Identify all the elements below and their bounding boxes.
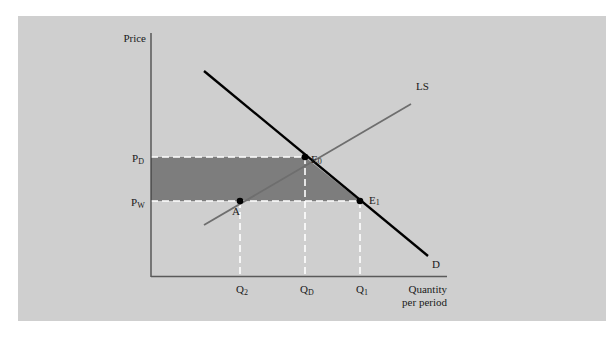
supply-demand-diagram: Price Quantity per period PD PW Q2 QD Q1… <box>0 0 616 337</box>
point-label-e0: E0 <box>311 153 322 166</box>
point-label-a: A <box>232 205 240 217</box>
x-axis-label-line2: per period <box>402 296 447 308</box>
curve-label-d: D <box>432 258 440 270</box>
price-label-pw: PW <box>131 196 145 210</box>
quantity-label-qd: QD <box>300 283 314 297</box>
y-axis-label: Price <box>123 32 146 44</box>
point-a <box>237 198 244 205</box>
point-label-e1: E1 <box>369 194 380 207</box>
price-label-pd: PD <box>132 152 144 166</box>
point-e0 <box>302 154 309 161</box>
quantity-label-q1: Q1 <box>356 283 368 297</box>
point-e1 <box>357 198 364 205</box>
curve-label-ls: LS <box>416 80 429 92</box>
x-axis-label-line1: Quantity <box>409 283 448 295</box>
quantity-label-q2: Q2 <box>236 283 248 297</box>
